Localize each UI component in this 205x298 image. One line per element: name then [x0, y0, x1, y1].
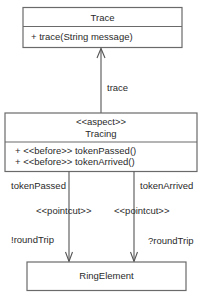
uml-diagram: Trace + trace(String message) trace <<as… [0, 0, 205, 298]
class-trace-operation: + trace(String message) [31, 31, 133, 42]
class-tracing-name: Tracing [85, 128, 116, 139]
token-arrived-stereotype: <<pointcut>> [114, 205, 170, 216]
token-passed-target-label: !roundTrip [11, 234, 54, 245]
class-ring-element-name: RingElement [79, 270, 134, 281]
connection-token-passed: tokenPassed <<pointcut>> !roundTrip [11, 172, 92, 262]
class-tracing-operation-1: + <<before>> tokenPassed() [15, 145, 136, 156]
connection-token-arrived: tokenArrived <<pointcut>> ?roundTrip [114, 172, 194, 262]
class-tracing-operation-2: + <<before>> tokenArrived() [15, 156, 135, 167]
connection-trace: trace [97, 49, 128, 114]
class-trace: Trace + trace(String message) [23, 8, 182, 48]
token-passed-source-label: tokenPassed [11, 180, 66, 191]
class-tracing: <<aspect>> Tracing + <<before>> tokenPas… [5, 113, 197, 172]
class-tracing-stereotype: <<aspect>> [76, 116, 127, 127]
token-arrived-source-label: tokenArrived [140, 180, 193, 191]
class-trace-name: Trace [91, 12, 115, 23]
trace-label: trace [107, 82, 128, 93]
token-passed-stereotype: <<pointcut>> [36, 205, 92, 216]
class-ring-element: RingElement [27, 262, 186, 291]
token-arrived-target-label: ?roundTrip [148, 235, 194, 246]
